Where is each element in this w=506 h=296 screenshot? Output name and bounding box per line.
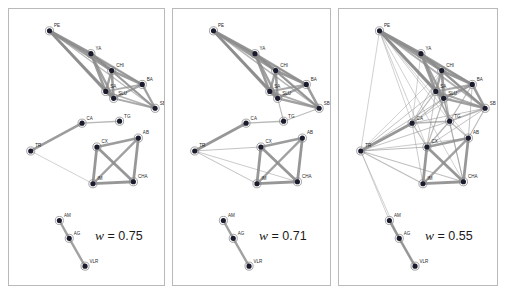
graph-node[interactable] <box>447 119 452 124</box>
node-label: TG <box>124 114 131 119</box>
node-label: CHA <box>302 174 313 179</box>
graph-node[interactable] <box>252 51 257 56</box>
graph-node[interactable] <box>281 119 286 124</box>
graph-node[interactable] <box>424 144 429 149</box>
node-label: AM <box>64 213 71 218</box>
graph-edge <box>59 220 69 238</box>
weight-label-0: w = 0.75 <box>95 228 143 244</box>
graph-edge <box>278 98 284 121</box>
graph-node[interactable] <box>88 51 93 56</box>
graph-node[interactable] <box>483 106 488 111</box>
node-label: IM <box>261 176 266 181</box>
graph-node[interactable] <box>470 82 475 87</box>
graph-edge <box>389 220 415 266</box>
graph-edge <box>423 182 463 184</box>
node-label: BA <box>147 77 154 82</box>
node-label: YA <box>426 46 433 51</box>
graph-node[interactable] <box>221 218 226 223</box>
graph-node[interactable] <box>300 135 305 140</box>
graph-node[interactable] <box>82 264 87 269</box>
graph-edge <box>213 31 319 108</box>
graph-node[interactable] <box>231 236 236 241</box>
graph-edge <box>112 71 143 85</box>
weight-symbol-2: w <box>425 228 434 243</box>
node-label: CX <box>431 139 437 144</box>
graph-node[interactable] <box>90 181 95 186</box>
node-label: TG <box>288 114 295 119</box>
graph-node[interactable] <box>79 121 84 126</box>
graph-edge <box>82 121 120 123</box>
graph-node[interactable] <box>57 218 62 223</box>
graph-node[interactable] <box>295 179 300 184</box>
graph-node[interactable] <box>317 106 322 111</box>
graph-node[interactable] <box>387 218 392 223</box>
graph-node[interactable] <box>410 121 415 126</box>
graph-node[interactable] <box>412 264 417 269</box>
graph-node[interactable] <box>136 135 141 140</box>
graph-node[interactable] <box>103 89 108 94</box>
graph-canvas-2: PEYACHIBASASLUSBCATGTRCXABCHAIMAMAGVLR <box>339 9 497 285</box>
graph-node[interactable] <box>111 96 116 101</box>
graph-node[interactable] <box>117 119 122 124</box>
node-label: IM <box>427 176 432 181</box>
graph-edge <box>276 71 307 85</box>
graph-node[interactable] <box>439 68 444 73</box>
node-label: SLU <box>118 91 127 96</box>
graph-edge <box>246 121 284 123</box>
graph-node[interactable] <box>304 82 309 87</box>
weight-symbol-0: w <box>95 228 104 243</box>
node-label: BA <box>311 77 318 82</box>
graph-node[interactable] <box>94 144 99 149</box>
node-label: TR <box>365 143 372 148</box>
node-label: CHA <box>468 174 479 179</box>
weight-value-2: 0.55 <box>448 229 472 243</box>
graph-node[interactable] <box>358 148 363 153</box>
node-label: CHI <box>280 63 288 68</box>
graph-node[interactable] <box>47 28 52 33</box>
graph-node[interactable] <box>153 106 158 111</box>
node-label: SB <box>490 101 496 106</box>
graph-node[interactable] <box>267 89 272 94</box>
graph-node[interactable] <box>275 96 280 101</box>
node-label: TG <box>454 114 461 119</box>
graph-edge <box>257 182 297 184</box>
node-label: BA <box>477 77 484 82</box>
graph-node[interactable] <box>140 82 145 87</box>
node-label: PE <box>54 23 60 28</box>
weight-value-0: 0.75 <box>118 229 142 243</box>
graph-node[interactable] <box>244 121 249 126</box>
graph-node[interactable] <box>246 264 251 269</box>
node-label: SLU <box>282 91 291 96</box>
node-label: AG <box>238 231 245 236</box>
node-label: PE <box>384 23 390 28</box>
graph-node[interactable] <box>461 179 466 184</box>
node-label: AB <box>143 130 149 135</box>
graph-node[interactable] <box>433 89 438 94</box>
graph-node[interactable] <box>211 28 216 33</box>
graph-node[interactable] <box>441 96 446 101</box>
graph-node[interactable] <box>254 181 259 186</box>
graph-panel-0: PEYACHIBASASLUSBCATGTRCXABCHAIMAMAGVLR w… <box>8 8 165 286</box>
node-label: CHI <box>446 63 454 68</box>
graph-panel-2: PEYACHIBASASLUSBCATGTRCXABCHAIMAMAGVLR w… <box>338 8 498 286</box>
graph-node[interactable] <box>420 181 425 186</box>
node-label: YA <box>259 46 266 51</box>
graph-node[interactable] <box>28 148 33 153</box>
graph-node[interactable] <box>67 236 72 241</box>
node-label: AM <box>394 213 401 218</box>
graph-node[interactable] <box>418 51 423 56</box>
graph-node[interactable] <box>131 179 136 184</box>
graph-edge <box>361 138 469 151</box>
node-label: SB <box>324 101 330 106</box>
graph-node[interactable] <box>192 148 197 153</box>
graph-node[interactable] <box>273 68 278 73</box>
node-label: VLR <box>254 259 264 264</box>
graph-node[interactable] <box>397 236 402 241</box>
weight-symbol-1: w <box>259 228 268 243</box>
graph-node[interactable] <box>466 135 471 140</box>
graph-node[interactable] <box>258 144 263 149</box>
node-label: YA <box>95 46 102 51</box>
weight-label-1: w = 0.71 <box>259 228 307 244</box>
graph-node[interactable] <box>377 28 382 33</box>
graph-node[interactable] <box>109 68 114 73</box>
